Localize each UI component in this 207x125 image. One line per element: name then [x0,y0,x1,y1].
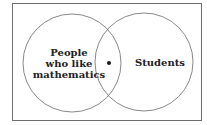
set-label-line-3: mathematics [33,69,106,80]
set-label-students: Students [135,57,185,68]
set-label-line-1: People [50,47,87,58]
intersection-dot [107,61,111,65]
venn-diagram: People who like mathematics Students [0,0,207,125]
set-label-line-2: who like [45,58,93,69]
